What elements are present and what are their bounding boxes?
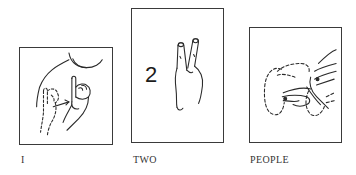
sign-people-illustration-icon xyxy=(250,28,341,142)
sign-i-illustration-icon xyxy=(20,48,112,144)
caption-two: TWO xyxy=(133,155,157,165)
caption-people: PEOPLE xyxy=(250,155,289,165)
sign-card-two: 2 xyxy=(131,8,224,143)
sign-card-people xyxy=(249,27,342,143)
sign-card-i xyxy=(19,47,113,145)
sign-two-illustration-icon xyxy=(132,9,223,142)
caption-i: I xyxy=(21,155,25,165)
